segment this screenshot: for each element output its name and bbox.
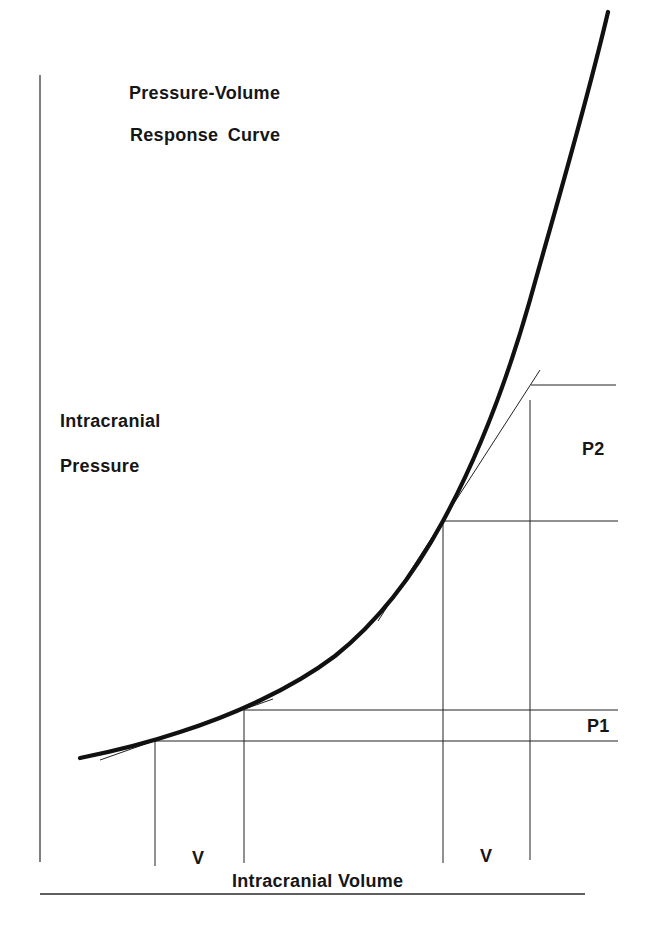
p1-label: P1: [587, 716, 610, 737]
y-axis-label-line1: Intracranial: [60, 411, 161, 432]
v-right-label: V: [480, 846, 492, 867]
p2-label: P2: [582, 439, 605, 460]
v-left-label: V: [192, 848, 204, 869]
chart-title-line1: Pressure-Volume: [129, 83, 280, 104]
y-axis-label-line2: Pressure: [60, 456, 139, 477]
chart-title-line2: Response Curve: [130, 125, 280, 146]
pressure-volume-curve: [80, 12, 608, 758]
low-volume-construction: [100, 699, 618, 866]
x-axis-label: Intracranial Volume: [232, 871, 403, 892]
